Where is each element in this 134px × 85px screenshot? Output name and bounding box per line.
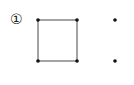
diagram-canvas xyxy=(0,0,134,85)
square-corner-point xyxy=(36,18,40,22)
isolated-point xyxy=(113,18,117,22)
square-outline xyxy=(38,20,77,61)
square-corner-point xyxy=(75,59,79,63)
isolated-point xyxy=(113,59,117,63)
square-corner-point xyxy=(36,59,40,63)
square-corner-point xyxy=(75,18,79,22)
